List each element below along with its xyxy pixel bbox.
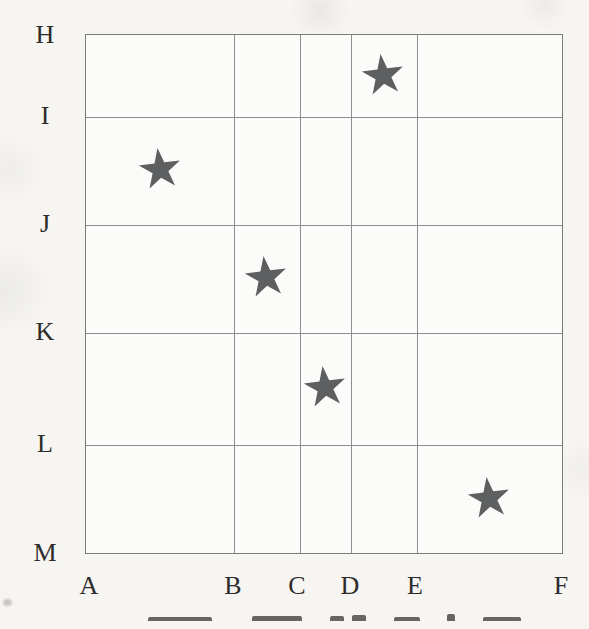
caption-letter-top-fragment [483, 617, 521, 621]
grid-horizontal-line-I [86, 117, 562, 118]
caption-letter-top-fragment [352, 615, 366, 621]
star-marker-2: ★ [132, 139, 187, 198]
col-label-C: C [288, 573, 305, 599]
page-margin-speck [3, 599, 12, 606]
star-marker-5: ★ [462, 468, 517, 527]
grid-horizontal-line-J [86, 225, 562, 226]
col-label-B: B [224, 573, 241, 599]
caption-letter-top-fragment [394, 617, 420, 621]
grid-horizontal-line-L [86, 445, 562, 446]
caption-letter-top-fragment [447, 614, 455, 621]
col-label-F: F [554, 573, 568, 599]
row-label-I: I [41, 103, 50, 129]
grid-vertical-line-B [234, 35, 235, 553]
row-label-L: L [37, 431, 53, 457]
grid-vertical-line-C [300, 35, 301, 553]
row-label-H: H [36, 22, 55, 48]
caption-letter-top-fragment [252, 616, 302, 621]
row-label-K: K [36, 319, 55, 345]
row-label-M: M [33, 540, 56, 566]
col-label-D: D [341, 573, 360, 599]
star-marker-3: ★ [239, 247, 294, 306]
caption-letter-top-fragment [148, 617, 212, 621]
row-label-J: J [40, 211, 50, 237]
caption-letter-top-fragment [330, 616, 344, 621]
col-label-E: E [407, 573, 423, 599]
star-marker-4: ★ [297, 357, 352, 416]
grid-horizontal-line-K [86, 333, 562, 334]
grid-vertical-line-D [351, 35, 352, 553]
col-label-A: A [80, 573, 99, 599]
star-marker-1: ★ [356, 45, 411, 104]
grid-vertical-line-E [417, 35, 418, 553]
scanned-figure-page: HIJKLM ABCDEF ★★★★★ [0, 0, 589, 629]
